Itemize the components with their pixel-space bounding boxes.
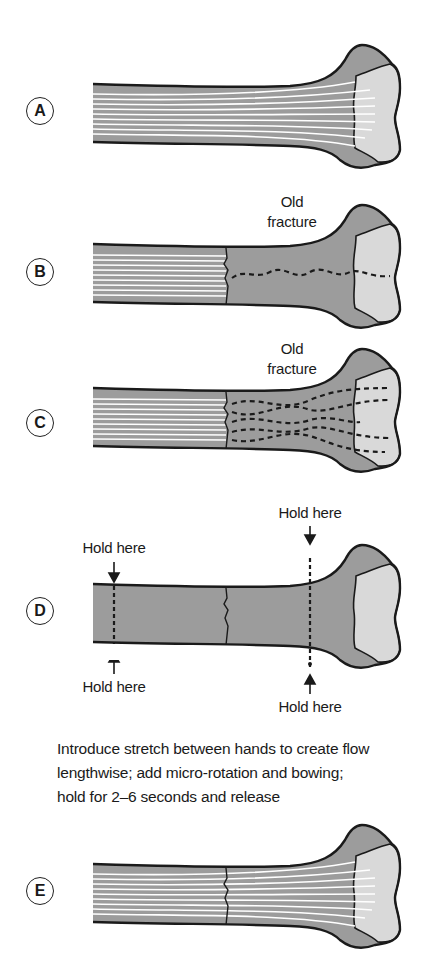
panel-c: C Old fracture (0, 340, 431, 500)
panel-label-a: A (26, 97, 54, 125)
hold-here-label-left-top: Hold here (72, 538, 156, 558)
panel-e: E (0, 780, 431, 971)
bone-adhesions-illustration (0, 304, 431, 504)
old-fracture-annotation: Old fracture (262, 192, 322, 232)
panel-d-bottom-labels: Hold here Hold here (0, 660, 431, 730)
hold-arrows-bottom (0, 660, 431, 730)
panel-label-b: B (26, 258, 54, 286)
panel-label-e: E (26, 877, 54, 905)
bone-restored-illustration (0, 780, 431, 971)
hold-here-label-right-bottom: Hold here (268, 697, 352, 717)
panel-label-d: D (26, 597, 54, 625)
hold-here-label-left-bottom: Hold here (72, 677, 156, 697)
panel-label-c: C (26, 409, 54, 437)
panel-d: D Hold here Hold here (0, 500, 431, 680)
hold-here-label-right-top: Hold here (268, 503, 352, 523)
old-fracture-annotation: Old fracture (262, 339, 322, 379)
